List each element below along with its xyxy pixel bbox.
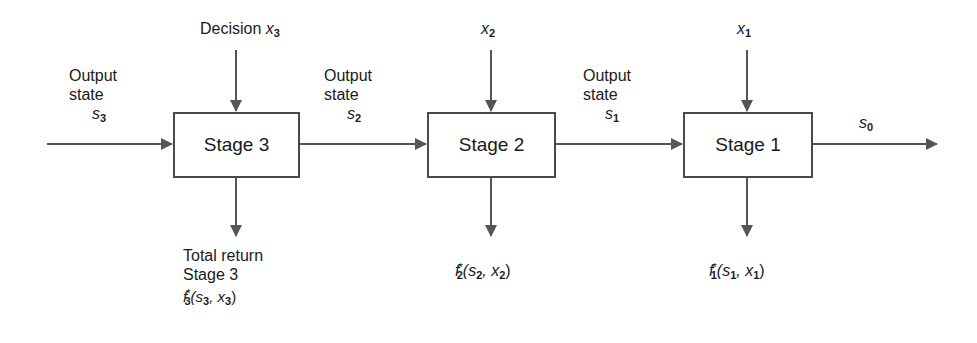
state-s3-label: Output state s3 — [69, 66, 117, 128]
decision-x2-label: x2 — [481, 19, 495, 43]
return-fn-f3: f*3(s3, x3) — [183, 284, 263, 311]
decision-var-x2: x2 — [481, 20, 495, 37]
stage-2-label: Stage 2 — [459, 134, 525, 156]
state-s0-label: s0 — [859, 113, 873, 137]
stage-3-label: Stage 3 — [204, 134, 270, 156]
return-stage-3-label: Total return Stage 3 f*3(s3, x3) — [183, 246, 263, 311]
stage-1-label: Stage 1 — [715, 134, 781, 156]
stage-3-box: Stage 3 — [173, 112, 300, 178]
decision-x3-label: Decision x3 — [200, 19, 280, 43]
state-s1-label: Output state s1 — [583, 66, 631, 128]
decision-var-x3: x3 — [266, 20, 280, 37]
return-fn-f1: f*1(s1, x1) — [709, 258, 765, 285]
state-s2-label: Output state s2 — [324, 66, 372, 128]
decision-var-x1: x1 — [737, 20, 751, 37]
stage-2-box: Stage 2 — [427, 112, 556, 178]
return-fn-f2: f*2(s2, x2) — [455, 258, 511, 285]
stage-1-box: Stage 1 — [683, 112, 813, 178]
decision-x1-label: x1 — [737, 19, 751, 43]
